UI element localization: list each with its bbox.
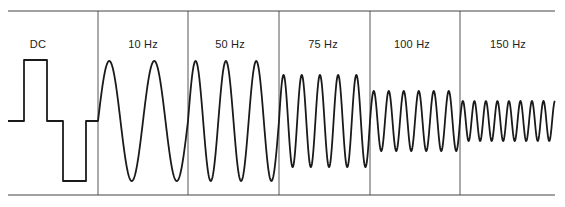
signal-trace — [8, 60, 555, 181]
label-dc: DC — [30, 38, 46, 50]
label-100hz: 100 Hz — [394, 38, 430, 50]
label-50hz: 50 Hz — [215, 38, 245, 50]
label-10hz: 10 Hz — [128, 38, 158, 50]
frequency-waveform-diagram — [0, 0, 565, 207]
label-75hz: 75 Hz — [308, 38, 338, 50]
label-150hz: 150 Hz — [490, 38, 526, 50]
waveforms — [8, 60, 555, 181]
